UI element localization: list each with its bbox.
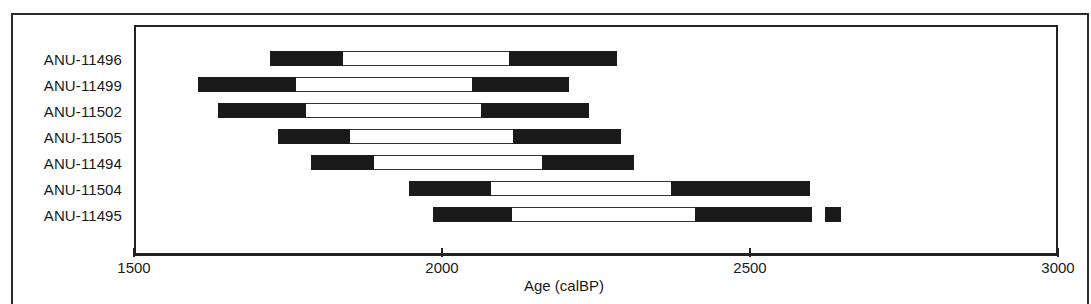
- category-label: ANU-11499: [0, 78, 122, 93]
- category-label: ANU-11495: [0, 208, 122, 223]
- bar-segment-lower-tail: [433, 207, 511, 222]
- category-label: ANU-11502: [0, 104, 122, 119]
- bar-segment-upper-tail: [472, 77, 569, 92]
- bar-segment-center: [296, 77, 472, 92]
- bar-segment-center: [343, 51, 508, 66]
- bar-segment-lower-tail: [270, 51, 343, 66]
- bar-row: [134, 51, 1058, 66]
- x-axis-tick-label: 1500: [117, 260, 150, 275]
- bar-segment-lower-tail: [198, 77, 296, 92]
- x-axis-tick: [133, 248, 135, 257]
- category-label: ANU-11505: [0, 130, 122, 145]
- bar-row: [134, 181, 1058, 196]
- bar-row: [134, 207, 1058, 222]
- bar-segment-center: [374, 155, 542, 170]
- bar-segment-upper-tail: [695, 207, 813, 222]
- x-axis-tick: [749, 248, 751, 257]
- bar-segment-upper-tail: [509, 51, 617, 66]
- bars-layer: [134, 25, 1058, 255]
- bar-row: [134, 103, 1058, 118]
- x-axis-tick: [1057, 248, 1059, 257]
- bar-segment-lower-tail: [409, 181, 491, 196]
- x-axis-tick-label: 3000: [1041, 260, 1074, 275]
- bar-segment-center: [306, 103, 480, 118]
- bar-row: [134, 129, 1058, 144]
- chart-figure: ANU-11496ANU-11499ANU-11502ANU-11505ANU-…: [0, 0, 1091, 304]
- bar-segment-upper-tail: [513, 129, 620, 144]
- bar-segment-upper-tail: [481, 103, 589, 118]
- bar-segment-outlier: [825, 207, 841, 222]
- category-label-column: ANU-11496ANU-11499ANU-11502ANU-11505ANU-…: [0, 25, 122, 255]
- figure-border-top: [11, 13, 1089, 15]
- bar-segment-lower-tail: [218, 103, 306, 118]
- x-axis-line: [134, 254, 1058, 256]
- bar-row: [134, 155, 1058, 170]
- x-axis-tick-label: 2000: [425, 260, 458, 275]
- category-label: ANU-11494: [0, 156, 122, 171]
- bar-segment-center: [350, 129, 513, 144]
- bar-segment-lower-tail: [311, 155, 373, 170]
- category-label: ANU-11504: [0, 182, 122, 197]
- x-axis-title: Age (calBP): [524, 278, 604, 293]
- figure-border-right: [1087, 13, 1089, 304]
- bar-row: [134, 77, 1058, 92]
- x-axis-tick: [441, 248, 443, 257]
- bar-segment-upper-tail: [542, 155, 634, 170]
- bar-segment-lower-tail: [278, 129, 350, 144]
- bar-segment-center: [491, 181, 671, 196]
- bar-segment-upper-tail: [671, 181, 810, 196]
- category-label: ANU-11496: [0, 52, 122, 67]
- x-axis-tick-label: 2500: [733, 260, 766, 275]
- bar-segment-center: [512, 207, 695, 222]
